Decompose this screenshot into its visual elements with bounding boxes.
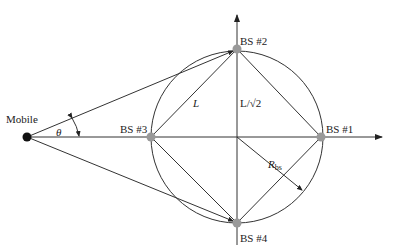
half-diagonal-label: L/√2: [240, 97, 261, 109]
bs2-label: BS #2: [240, 35, 267, 47]
base-station-geometry-diagram: Mobile θ BS #1 BS #2 BS #3 BS #4 L L/√2 …: [0, 0, 400, 251]
bs3-node: [147, 133, 156, 142]
bs4-label: BS #4: [240, 232, 268, 244]
mobile-to-bs4-line: [27, 137, 233, 221]
mobile-node: [23, 133, 32, 142]
theta-angle-arc: [72, 118, 79, 136]
bs1-label: BS #1: [326, 123, 353, 135]
radius-label: Rbs: [267, 158, 282, 172]
mobile-label: Mobile: [6, 113, 38, 125]
bs4-node: [233, 219, 242, 228]
theta-label: θ: [56, 126, 62, 138]
radius-label-sub: bs: [275, 163, 282, 172]
bs1-node: [317, 133, 326, 142]
side-length-label: L: [192, 97, 199, 109]
bs3-label: BS #3: [120, 123, 148, 135]
